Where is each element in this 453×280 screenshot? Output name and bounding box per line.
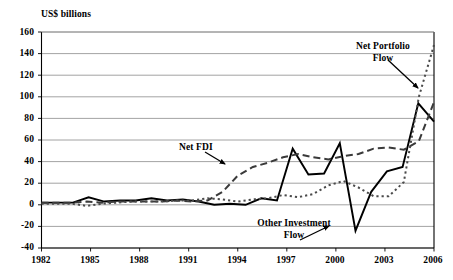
x-tick-label-1997: 1997: [266, 255, 306, 265]
y-tick-label-40: 40: [4, 156, 34, 166]
grid-lines: [42, 32, 435, 248]
annotation-other-investment-flow-line1: Other Investment: [240, 217, 348, 229]
y-tick-label-60: 60: [4, 134, 34, 144]
x-tick-label-2003: 2003: [364, 255, 404, 265]
chart-figure: US$ billions 160 140 120 100 80 60 40 20…: [0, 0, 453, 280]
annotation-net-portfolio-flow: Net Portfolio Flow: [340, 40, 426, 64]
annotation-other-investment-flow: Other Investment Flow: [240, 217, 348, 241]
y-tick-label-20: 20: [4, 177, 34, 187]
data-series-layer: [42, 45, 435, 231]
arrow-net-fdi: [205, 152, 225, 164]
y-tick-label-neg40: -40: [4, 242, 34, 252]
annotation-net-portfolio-flow-line1: Net Portfolio: [340, 40, 426, 52]
x-tick-label-1985: 1985: [70, 255, 110, 265]
x-tick-label-2000: 2000: [315, 255, 355, 265]
x-tick-label-1991: 1991: [168, 255, 208, 265]
x-tick-label-1988: 1988: [119, 255, 159, 265]
y-tick-label-0: 0: [4, 199, 34, 209]
y-tick-label-160: 160: [4, 27, 34, 37]
annotation-other-investment-flow-line2: Flow: [240, 229, 348, 241]
annotation-arrows: [205, 60, 418, 240]
y-tick-label-80: 80: [4, 113, 34, 123]
arrow-net-portfolio-flow: [388, 60, 418, 88]
annotation-net-fdi: Net FDI: [179, 141, 213, 153]
x-tick-label-1982: 1982: [21, 255, 61, 265]
x-tick-label-2006: 2006: [413, 255, 453, 265]
x-tick-label-1994: 1994: [217, 255, 257, 265]
y-tick-label-100: 100: [4, 91, 34, 101]
series-line-net-portfolio-flow: [42, 45, 435, 206]
y-axis-title: US$ billions: [41, 9, 91, 19]
y-tick-label-140: 140: [4, 48, 34, 58]
y-tick-label-neg20: -20: [4, 220, 34, 230]
y-tick-label-120: 120: [4, 70, 34, 80]
annotation-net-portfolio-flow-line2: Flow: [340, 52, 426, 64]
series-line-other-investment-flow: [42, 103, 435, 230]
